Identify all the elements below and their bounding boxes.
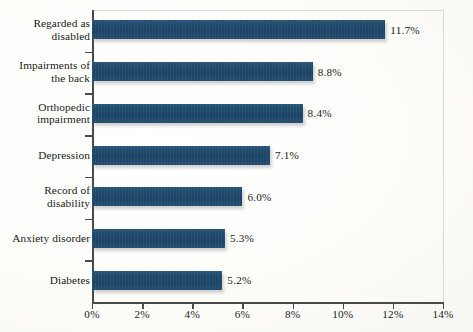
category-label-1: Impairments of the back <box>0 59 90 84</box>
bar-2 <box>92 104 303 123</box>
value-label-2: 8.4% <box>308 107 332 119</box>
bar-3 <box>92 146 270 165</box>
bar-5 <box>92 229 225 248</box>
value-label-1: 8.8% <box>318 66 342 78</box>
plot-frame-right <box>443 10 444 303</box>
y-tick-1 <box>85 52 93 53</box>
x-tick-label-6: 12% <box>382 308 403 320</box>
y-tick-5 <box>85 219 93 220</box>
x-tick-label-0: 0% <box>84 308 99 320</box>
y-tick-3 <box>85 135 93 136</box>
bar-0 <box>92 20 385 39</box>
bar-4 <box>92 187 242 206</box>
y-tick-4 <box>85 177 93 178</box>
category-label-3: Depression <box>0 149 90 162</box>
value-label-4: 6.0% <box>247 191 271 203</box>
bar-chart: Regarded as disabledImpairments of the b… <box>0 0 473 332</box>
x-tick-label-7: 14% <box>432 308 453 320</box>
x-tick-label-1: 2% <box>134 308 149 320</box>
category-label-6: Diabetes <box>0 274 90 287</box>
x-tick-label-5: 10% <box>332 308 353 320</box>
x-tick-label-4: 8% <box>285 308 300 320</box>
category-label-2: Orthopedic impairment <box>0 101 90 126</box>
x-tick-label-3: 6% <box>235 308 250 320</box>
category-label-0: Regarded as disabled <box>0 17 90 42</box>
bar-6 <box>92 271 222 290</box>
bar-1 <box>92 62 313 81</box>
category-label-4: Record of disability <box>0 184 90 209</box>
plot-frame-top <box>92 10 443 11</box>
value-label-3: 7.1% <box>275 149 299 161</box>
x-tick-label-2: 4% <box>185 308 200 320</box>
value-label-5: 5.3% <box>230 232 254 244</box>
y-tick-2 <box>85 93 93 94</box>
y-tick-6 <box>85 260 93 261</box>
value-label-6: 5.2% <box>227 274 251 286</box>
value-label-0: 11.7% <box>390 24 419 36</box>
x-axis-line <box>92 302 443 304</box>
category-label-5: Anxiety disorder <box>0 232 90 245</box>
